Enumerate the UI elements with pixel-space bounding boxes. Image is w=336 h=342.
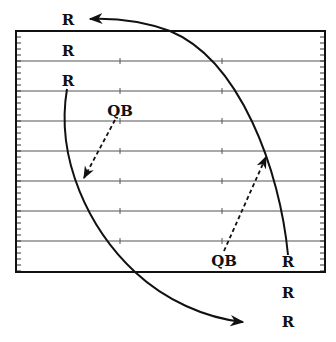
- receiver-top-2-label: R: [62, 44, 74, 59]
- football-field: [16, 31, 325, 272]
- route-left-receiver-arrow-icon: [65, 89, 243, 322]
- pass-left-arrow-icon: [84, 120, 115, 178]
- receiver-bottom-1-label: R: [282, 255, 294, 270]
- pass-arrows: [84, 120, 266, 251]
- receiver-top-1-label: R: [62, 13, 74, 28]
- receiver-bottom-2-label: R: [282, 286, 294, 301]
- route-right-receiver-arrow-icon: [90, 19, 288, 255]
- play-diagram: RRRQBQBRRR: [0, 0, 336, 342]
- pass-right-arrow-icon: [224, 157, 266, 251]
- receiver-bottom-3-label: R: [282, 315, 294, 330]
- quarterback-left-label: QB: [107, 104, 133, 119]
- receiver-routes: [65, 19, 288, 322]
- quarterback-right-label: QB: [211, 254, 237, 269]
- receiver-top-3-label: R: [62, 74, 74, 89]
